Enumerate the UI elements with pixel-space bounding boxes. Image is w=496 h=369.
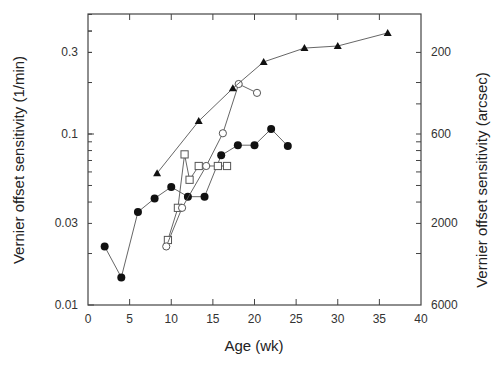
data-point: [284, 142, 292, 150]
x-tick-label: 30: [331, 312, 345, 326]
data-point: [151, 194, 159, 202]
data-point: [186, 176, 193, 183]
y-tick-label-right: 6000: [431, 298, 458, 312]
x-tick-label: 35: [373, 312, 387, 326]
data-point: [101, 242, 109, 250]
x-tick-label: 25: [289, 312, 303, 326]
y-tick-label-right: 600: [431, 127, 451, 141]
data-point: [167, 183, 175, 191]
x-tick-label: 10: [165, 312, 179, 326]
x-tick-label: 40: [414, 312, 428, 326]
y-tick-label-left: 0.3: [61, 45, 78, 59]
data-point: [203, 162, 210, 169]
y-axis-title-right: Vernier offset sensitivity (arcsec): [473, 72, 490, 288]
x-tick-label: 0: [85, 312, 92, 326]
data-point: [267, 125, 275, 133]
data-point: [178, 204, 185, 211]
data-point: [219, 130, 226, 137]
y-axis-ticks-right: 20060020006000: [416, 45, 458, 312]
series-open-circles: [163, 80, 261, 250]
data-point: [384, 29, 392, 36]
data-point: [134, 208, 142, 216]
data-point: [253, 89, 260, 96]
data-point: [117, 273, 125, 281]
data-point: [217, 151, 225, 159]
data-point: [181, 151, 188, 158]
plot-border: [88, 14, 421, 305]
data-point: [184, 193, 192, 201]
x-axis-title: Age (wk): [224, 337, 283, 354]
data-series: [101, 29, 392, 281]
data-point: [234, 141, 242, 149]
x-axis-ticks: 0510152025303540: [85, 14, 428, 326]
y-tick-label-left: 0.03: [55, 216, 79, 230]
y-tick-label-right: 200: [431, 45, 451, 59]
y-axis-title-left: Vernier offset sensitivity (1/min): [10, 56, 27, 264]
y-tick-label-right: 2000: [431, 216, 458, 230]
data-point: [201, 193, 209, 201]
data-point: [195, 162, 202, 169]
data-point: [223, 162, 230, 169]
series-open-squares: [164, 151, 230, 244]
plot-frame: [88, 14, 421, 305]
data-point: [214, 162, 221, 169]
x-tick-label: 20: [248, 312, 262, 326]
series-filled-triangles: [153, 29, 392, 176]
x-tick-label: 5: [126, 312, 133, 326]
data-point: [163, 243, 170, 250]
y-tick-label-left: 0.01: [55, 298, 79, 312]
figure-caption-fragment: [100, 364, 496, 369]
chart: 0510152025303540 0.010.030.10.3 20060020…: [0, 0, 496, 369]
x-tick-label: 15: [206, 312, 220, 326]
y-tick-label-left: 0.1: [61, 127, 78, 141]
series-filled-circles: [101, 125, 292, 281]
data-point: [251, 141, 259, 149]
